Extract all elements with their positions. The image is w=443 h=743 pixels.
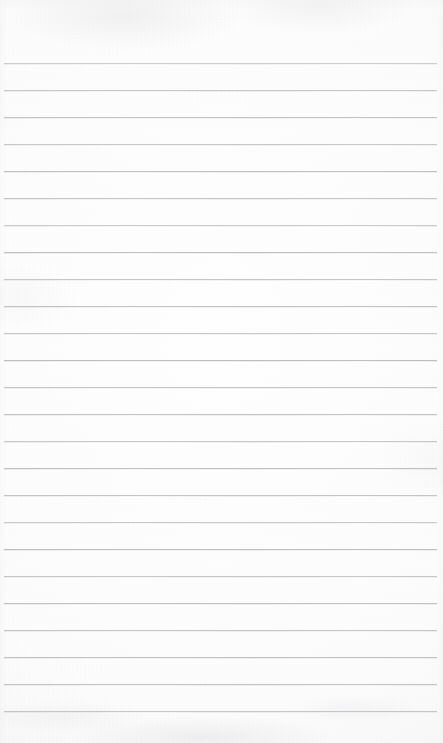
ruled-line — [4, 171, 437, 172]
ruled-line — [4, 684, 437, 685]
ruled-line — [4, 414, 437, 415]
ruled-line — [4, 198, 437, 199]
ruled-line — [4, 90, 437, 91]
ruled-line — [4, 63, 437, 64]
ruled-line — [4, 522, 437, 523]
ruled-line — [4, 576, 437, 577]
ruled-line — [4, 225, 437, 226]
ruled-line — [4, 495, 437, 496]
ruled-line — [4, 144, 437, 145]
ruled-line — [4, 630, 437, 631]
ruled-lines-layer — [0, 0, 443, 743]
ruled-line — [4, 468, 437, 469]
ruled-line — [4, 603, 437, 604]
ruled-line — [4, 657, 437, 658]
ruled-line — [4, 441, 437, 442]
ruled-line — [4, 306, 437, 307]
ruled-line — [4, 387, 437, 388]
ruled-line — [4, 252, 437, 253]
ruled-line — [4, 711, 437, 712]
ruled-line — [4, 549, 437, 550]
ruled-line — [4, 360, 437, 361]
ruled-line — [4, 117, 437, 118]
ruled-line — [4, 279, 437, 280]
scanned-page — [0, 0, 443, 743]
ruled-line — [4, 333, 437, 334]
